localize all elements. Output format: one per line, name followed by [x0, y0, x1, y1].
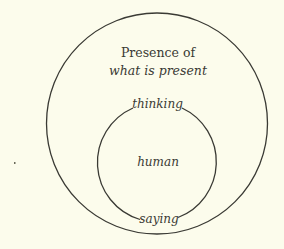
inner-top-label: thinking: [132, 97, 183, 111]
inner-circle-right-arc: [178, 108, 216, 218]
stray-dot: [14, 162, 16, 164]
inner-circle-left-arc: [97, 108, 140, 220]
nested-circles-diagram: Presence of what is present thinking hum…: [0, 0, 284, 249]
outer-label-line2: what is present: [109, 63, 208, 78]
outer-label-line1: Presence of: [121, 45, 197, 60]
inner-center-label: human: [137, 155, 179, 169]
inner-bottom-label: saying: [139, 212, 179, 226]
